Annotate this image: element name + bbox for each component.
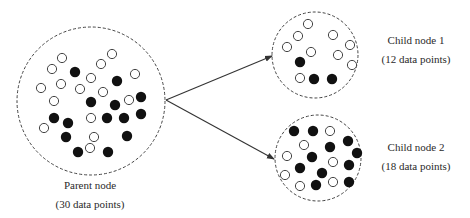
- open-data-point: [86, 113, 95, 122]
- filled-data-point: [343, 136, 353, 146]
- split-arrow-2: [166, 100, 274, 159]
- open-data-point: [124, 95, 133, 104]
- open-data-point: [57, 53, 66, 62]
- filled-data-point: [295, 57, 305, 67]
- filled-data-point: [307, 152, 317, 162]
- filled-data-point: [70, 67, 80, 77]
- open-data-point: [345, 40, 354, 49]
- filled-data-point: [308, 126, 318, 136]
- open-data-point: [295, 181, 304, 190]
- child-node-1-title: Child node 1: [366, 31, 466, 50]
- child-node-2: [275, 115, 362, 201]
- open-data-point: [39, 123, 48, 132]
- open-data-point: [299, 140, 308, 149]
- open-data-point: [328, 177, 337, 186]
- open-data-point: [303, 19, 312, 28]
- open-data-point: [75, 84, 84, 93]
- filled-data-point: [352, 148, 362, 158]
- filled-data-point: [136, 92, 146, 102]
- parent-node-count: (30 data points): [40, 195, 140, 214]
- child-node-2-label: Child node 2 (18 data points): [366, 138, 466, 176]
- open-data-point: [85, 143, 94, 152]
- child-node-1: [272, 12, 358, 98]
- parent-node-title: Parent node: [40, 176, 140, 195]
- filled-data-point: [136, 109, 146, 119]
- filled-data-point: [344, 160, 354, 170]
- filled-data-point: [110, 100, 120, 110]
- filled-data-point: [289, 126, 299, 136]
- child-node-1-count: (12 data points): [366, 50, 466, 69]
- open-data-point: [328, 30, 337, 39]
- open-data-point: [47, 64, 56, 73]
- open-data-point: [306, 47, 315, 56]
- child-node-2-title: Child node 2: [366, 138, 466, 157]
- filled-data-point: [61, 132, 71, 142]
- filled-data-point: [86, 97, 96, 107]
- filled-data-point: [73, 147, 83, 157]
- filled-data-point: [119, 113, 129, 123]
- filled-data-point: [103, 147, 113, 157]
- parent-node: [17, 27, 165, 175]
- open-data-point: [325, 126, 334, 135]
- open-data-point: [295, 73, 304, 82]
- open-data-point: [282, 151, 291, 160]
- open-data-point: [36, 83, 45, 92]
- open-data-point: [130, 69, 139, 78]
- open-data-point: [347, 60, 356, 69]
- filled-data-point: [295, 163, 305, 173]
- filled-data-point: [112, 76, 122, 86]
- filled-data-point: [327, 74, 337, 84]
- split-arrow-1: [166, 56, 272, 100]
- filled-data-point: [325, 142, 335, 152]
- filled-data-point: [63, 118, 73, 128]
- filled-data-point: [309, 74, 319, 84]
- filled-data-point: [344, 177, 354, 187]
- open-data-point: [89, 132, 98, 141]
- open-data-point: [49, 96, 58, 105]
- open-data-point: [56, 79, 65, 88]
- parent-node-label: Parent node (30 data points): [40, 176, 140, 214]
- open-data-point: [282, 42, 291, 51]
- open-data-point: [293, 31, 302, 40]
- filled-data-point: [49, 113, 59, 123]
- filled-data-point: [317, 168, 327, 178]
- edges: [166, 56, 274, 159]
- child-node-1-label: Child node 1 (12 data points): [366, 31, 466, 69]
- open-data-point: [280, 170, 289, 179]
- open-data-point: [96, 59, 105, 68]
- filled-data-point: [102, 113, 112, 123]
- open-data-point: [98, 87, 107, 96]
- filled-data-point: [122, 131, 132, 141]
- open-data-point: [328, 157, 337, 166]
- child-node-2-count: (18 data points): [366, 157, 466, 176]
- open-data-point: [86, 73, 95, 82]
- open-data-point: [107, 49, 116, 58]
- open-data-point: [333, 50, 342, 59]
- filled-data-point: [311, 180, 321, 190]
